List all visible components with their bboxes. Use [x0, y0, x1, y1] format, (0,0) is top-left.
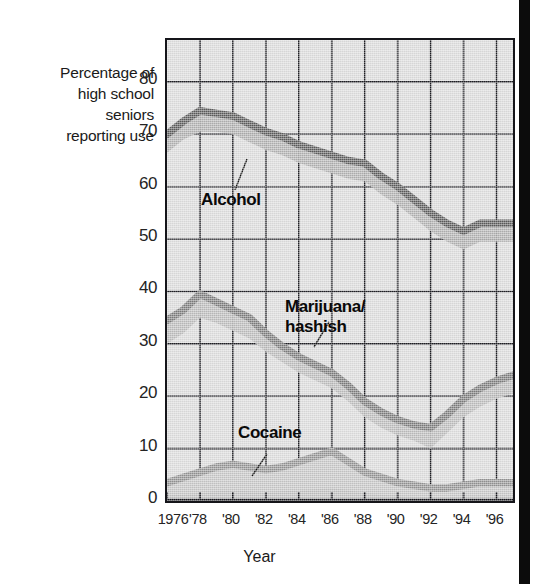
series-label-alcohol: Alcohol	[201, 190, 261, 210]
series-label-cocaine: Cocaine	[238, 423, 301, 443]
series-label-alcohol-text: Alcohol	[201, 190, 261, 209]
drug-use-trend-figure: Percentage of high school seniors report…	[0, 0, 539, 584]
series-label-marijuana-line-2: hashish	[285, 317, 365, 337]
series-label-marijuana-line-1: Marijuana/	[285, 297, 365, 317]
x-tick-78: '78	[189, 511, 207, 527]
x-axis-title: Year	[0, 548, 519, 566]
y-tick-10: 10	[117, 436, 157, 456]
x-tick-94: '94	[453, 511, 471, 527]
x-tick-92: '92	[420, 511, 438, 527]
gridlines	[167, 40, 513, 501]
page-gutter-bar	[519, 0, 530, 584]
y-tick-30: 30	[117, 331, 157, 351]
x-tick-80: '80	[222, 511, 240, 527]
x-tick-90: '90	[387, 511, 405, 527]
x-tick-1976: 1976	[158, 511, 189, 527]
plot-inner	[167, 40, 513, 501]
y-tick-20: 20	[117, 383, 157, 403]
y-tick-80: 80	[117, 69, 157, 89]
plot-area	[165, 38, 515, 503]
y-tick-50: 50	[117, 226, 157, 246]
chart-canvas	[167, 40, 513, 501]
series-label-cocaine-text: Cocaine	[238, 423, 301, 442]
x-tick-84: '84	[288, 511, 306, 527]
series-band-alcohol	[167, 111, 513, 250]
series-label-marijuana: Marijuana/ hashish	[285, 297, 365, 337]
x-tick-88: '88	[354, 511, 372, 527]
x-tick-82: '82	[255, 511, 273, 527]
x-tick-96: '96	[486, 511, 504, 527]
x-tick-86: '86	[321, 511, 339, 527]
y-tick-70: 70	[117, 121, 157, 141]
y-tick-40: 40	[117, 278, 157, 298]
y-tick-60: 60	[117, 174, 157, 194]
y-tick-0: 0	[117, 488, 157, 508]
